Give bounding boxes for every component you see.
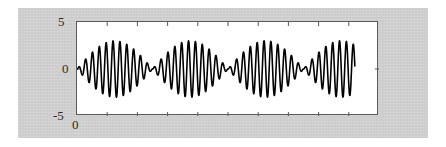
signal-waveform-line bbox=[77, 41, 355, 97]
y-axis-tick-label-bottom: -5 bbox=[53, 109, 64, 122]
plot-svg bbox=[77, 22, 379, 116]
x-axis-tick-marks bbox=[107, 112, 349, 116]
x-axis-tick-marks-top bbox=[107, 22, 349, 26]
plot-axes-box bbox=[76, 21, 378, 115]
y-axis-tick-label-zero: 0 bbox=[62, 62, 69, 75]
figure-root: 5 0 -5 0 bbox=[0, 0, 446, 147]
x-axis-tick-label-origin: 0 bbox=[72, 118, 79, 131]
y-axis-tick-label-top: 5 bbox=[58, 15, 65, 28]
